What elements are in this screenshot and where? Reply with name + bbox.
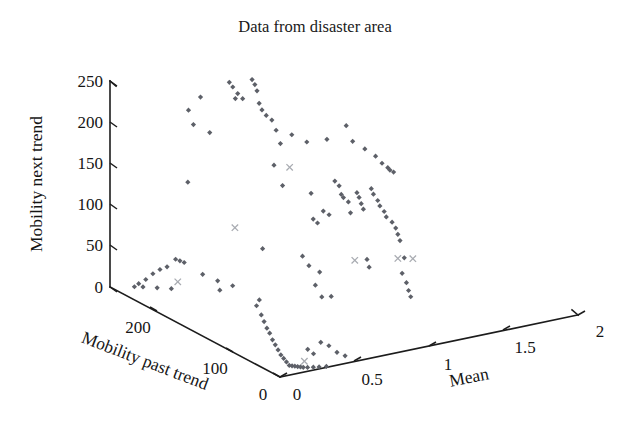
- data-point-diamond: [305, 365, 310, 370]
- data-point-cross: [395, 255, 401, 261]
- data-point-diamond: [304, 139, 309, 144]
- z-tick-label-0: 0: [95, 278, 104, 297]
- data-point-diamond: [230, 283, 235, 288]
- data-point-diamond: [315, 220, 320, 225]
- data-point-diamond: [215, 278, 220, 283]
- x-tick-label-2: 2: [596, 322, 605, 341]
- data-point-diamond: [300, 254, 305, 259]
- data-point-diamond: [284, 359, 289, 364]
- data-point-diamond: [375, 198, 380, 203]
- data-point-diamond: [344, 123, 349, 128]
- data-point-diamond: [186, 108, 191, 113]
- data-point-diamond: [348, 210, 353, 215]
- data-point-cross: [352, 257, 358, 263]
- data-point-diamond: [169, 286, 174, 291]
- x-tick-label-0: 0: [293, 385, 302, 404]
- data-point-diamond: [362, 146, 367, 151]
- data-point-diamond: [337, 183, 342, 188]
- data-point-diamond: [408, 294, 413, 299]
- data-point-diamond: [264, 326, 269, 331]
- data-point-diamond: [257, 101, 262, 106]
- data-point-diamond: [393, 226, 398, 231]
- data-point-diamond: [140, 284, 145, 289]
- x-axis-ticks: 0 0.5 1 1.5 2: [280, 311, 604, 404]
- data-point-diamond: [155, 285, 160, 290]
- data-point-diamond: [260, 246, 265, 251]
- data-point-diamond: [182, 260, 187, 265]
- data-point-diamond: [177, 258, 182, 263]
- data-point-diamond: [136, 281, 141, 286]
- data-point-diamond: [324, 137, 329, 142]
- data-point-diamond: [342, 353, 347, 358]
- data-point-diamond: [191, 122, 196, 127]
- data-point-diamond: [233, 96, 238, 101]
- data-point-diamond: [400, 271, 405, 276]
- data-point-diamond: [207, 130, 212, 135]
- data-point-diamond: [350, 139, 355, 144]
- data-point-diamond: [230, 84, 235, 89]
- x-tick-label-1-5: 1.5: [514, 338, 535, 357]
- data-point-diamond: [254, 88, 259, 93]
- z-axis-title: Mobility next trend: [26, 116, 46, 252]
- z-tick-label-150: 150: [78, 154, 104, 173]
- scatter3d-plot: Data from disaster area 250 200 150 100: [0, 0, 630, 427]
- data-point-diamond: [369, 186, 374, 191]
- data-point-diamond: [289, 132, 294, 137]
- data-point-diamond: [406, 288, 411, 293]
- z-tick-label-250: 250: [78, 72, 104, 91]
- data-point-diamond: [402, 255, 407, 260]
- data-point-diamond: [305, 347, 310, 352]
- z-tick-250: [110, 81, 117, 86]
- data-point-diamond: [311, 351, 316, 356]
- data-point-diamond: [240, 96, 245, 101]
- z-axis-ticks: 250 200 150 100 50 0: [78, 72, 118, 297]
- data-point-diamond: [306, 263, 311, 268]
- data-point-diamond: [382, 209, 387, 214]
- data-point-diamond: [384, 214, 389, 219]
- data-point-diamond: [270, 337, 275, 342]
- data-point-cross: [175, 279, 181, 285]
- x-axis-title: Mean: [447, 363, 490, 390]
- data-point-diamond: [308, 191, 313, 196]
- y-tick-label-200: 200: [125, 318, 151, 337]
- chart-figure: Data from disaster area 250 200 150 100: [0, 0, 630, 427]
- data-point-diamond: [249, 77, 254, 82]
- data-point-diamond: [321, 209, 326, 214]
- x-tick-2: [578, 311, 585, 315]
- z-tick-100: [110, 204, 117, 209]
- data-point-diamond: [281, 356, 286, 361]
- data-point-diamond: [132, 284, 137, 289]
- data-point-diamond: [373, 154, 378, 159]
- data-point-diamond: [173, 257, 178, 262]
- x-tick-label-0-5: 0.5: [361, 370, 382, 389]
- data-point-diamond: [271, 163, 276, 168]
- z-tick-label-100: 100: [78, 195, 104, 214]
- data-point-diamond: [143, 277, 148, 282]
- z-tick-200: [110, 122, 117, 127]
- z-tick-label-200: 200: [78, 113, 104, 132]
- data-point-diamond: [371, 192, 376, 197]
- data-point-diamond: [364, 257, 369, 262]
- data-point-diamond: [185, 180, 190, 185]
- data-point-diamond: [274, 128, 279, 133]
- data-point-diamond: [235, 91, 240, 96]
- data-point-diamond: [267, 331, 272, 336]
- chart-title: Data from disaster area: [238, 17, 392, 36]
- data-point-diamond: [397, 238, 402, 243]
- z-tick-50: [110, 245, 117, 250]
- data-point-diamond: [311, 216, 316, 221]
- data-point-diamond: [313, 283, 318, 288]
- data-point-diamond: [332, 179, 337, 184]
- data-point-cross: [301, 358, 307, 364]
- data-point-diamond: [395, 232, 400, 237]
- data-point-diamond: [389, 220, 394, 225]
- data-point-diamond: [329, 294, 334, 299]
- data-point-diamond: [273, 342, 278, 347]
- data-markers-layer: [132, 77, 416, 370]
- data-point-diamond: [264, 113, 269, 118]
- data-point-diamond: [404, 280, 409, 285]
- data-point-diamond: [157, 267, 162, 272]
- y-tick-label-0: 0: [259, 385, 268, 404]
- data-point-diamond: [259, 312, 264, 317]
- data-point-diamond: [278, 352, 283, 357]
